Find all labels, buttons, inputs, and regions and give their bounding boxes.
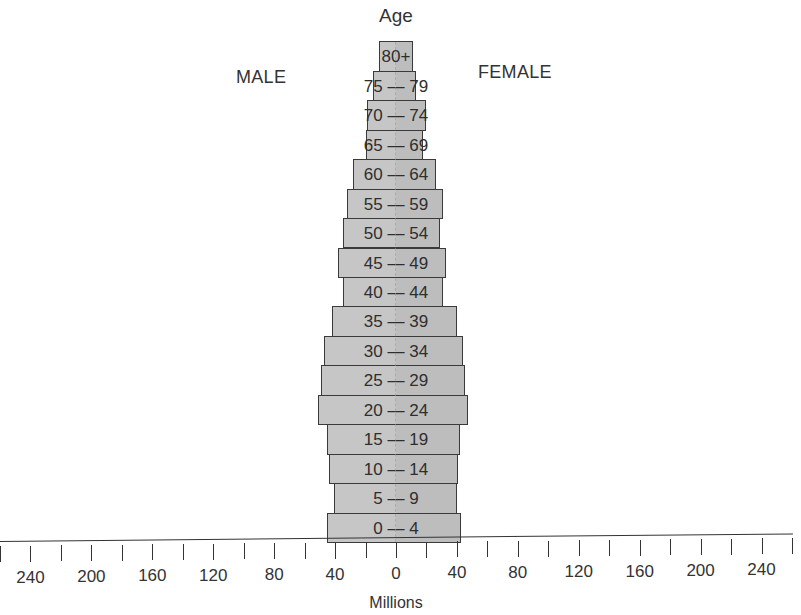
male-bar xyxy=(332,306,397,336)
x-axis-tick xyxy=(30,546,31,562)
x-axis-tick xyxy=(122,545,123,561)
female-bar xyxy=(396,41,413,71)
x-axis-tick-label: 240 xyxy=(16,568,44,588)
x-axis-tick xyxy=(305,543,306,559)
male-bar xyxy=(366,130,397,160)
male-bar xyxy=(347,189,397,219)
female-bar xyxy=(396,71,416,101)
female-bar xyxy=(396,365,465,395)
female-bar xyxy=(396,424,460,454)
x-axis-tick xyxy=(183,544,184,560)
female-bar xyxy=(396,248,446,278)
x-axis-tick xyxy=(0,546,1,562)
x-axis-tick xyxy=(701,539,702,555)
x-axis-tick xyxy=(548,541,549,557)
x-axis-tick xyxy=(426,542,427,558)
x-axis-title: Millions xyxy=(369,594,422,612)
female-bar xyxy=(396,336,463,366)
x-axis-tick-label: 160 xyxy=(625,562,653,582)
x-axis-tick-label: 0 xyxy=(391,564,400,584)
x-axis-tick-label: 200 xyxy=(686,561,714,581)
female-bar xyxy=(396,306,457,336)
male-bar xyxy=(373,71,397,101)
male-bar xyxy=(329,454,397,484)
population-pyramid-chart: Age MALE FEMALE 0 — 45 — 910 — 1415 — 19… xyxy=(0,0,801,615)
male-bar xyxy=(324,336,397,366)
male-bar xyxy=(343,218,397,248)
x-axis-tick xyxy=(762,538,763,554)
male-bar xyxy=(343,277,397,307)
x-axis-tick xyxy=(792,538,793,554)
female-bar xyxy=(396,218,440,248)
female-bar xyxy=(396,100,426,130)
x-axis-tick-label: 160 xyxy=(138,566,166,586)
x-axis-tick xyxy=(457,541,458,557)
x-axis-tick xyxy=(609,540,610,556)
x-axis-tick-label: 80 xyxy=(508,563,527,583)
male-bar xyxy=(327,424,397,454)
x-axis-tick xyxy=(640,540,641,556)
female-bar xyxy=(396,483,457,513)
x-axis-tick xyxy=(670,539,671,555)
x-axis-tick-label: 40 xyxy=(326,565,345,585)
x-axis-tick xyxy=(213,544,214,560)
female-bar xyxy=(396,395,468,425)
x-axis-tick xyxy=(274,543,275,559)
female-bar xyxy=(396,189,443,219)
x-axis-tick-label: 200 xyxy=(77,567,105,587)
x-axis-tick xyxy=(396,542,397,558)
x-axis-tick xyxy=(244,543,245,559)
x-axis-tick xyxy=(518,541,519,557)
center-divider xyxy=(395,42,396,542)
female-bar xyxy=(396,513,461,543)
x-axis-tick-label: 80 xyxy=(265,565,284,585)
x-axis-tick xyxy=(366,542,367,558)
male-bar xyxy=(367,100,397,130)
male-bar xyxy=(318,395,397,425)
male-bar xyxy=(353,159,397,189)
female-bar xyxy=(396,454,458,484)
female-bar xyxy=(396,130,423,160)
x-axis-tick-label: 120 xyxy=(565,562,593,582)
female-bar xyxy=(396,159,436,189)
female-bar xyxy=(396,277,443,307)
x-axis-tick xyxy=(91,545,92,561)
male-bar xyxy=(334,483,397,513)
x-axis-tick-label: 40 xyxy=(447,563,466,583)
x-axis-tick xyxy=(335,543,336,559)
male-bar xyxy=(338,248,397,278)
x-axis-tick-label: 120 xyxy=(199,566,227,586)
x-axis-tick xyxy=(579,540,580,556)
bars-area: 0 — 45 — 910 — 1415 — 1920 — 2425 — 2930… xyxy=(0,0,801,560)
x-axis-tick xyxy=(61,545,62,561)
x-axis-tick xyxy=(152,544,153,560)
x-axis-tick xyxy=(487,541,488,557)
male-bar xyxy=(321,365,397,395)
x-axis-tick xyxy=(731,539,732,555)
x-axis-tick-label: 240 xyxy=(747,560,775,580)
